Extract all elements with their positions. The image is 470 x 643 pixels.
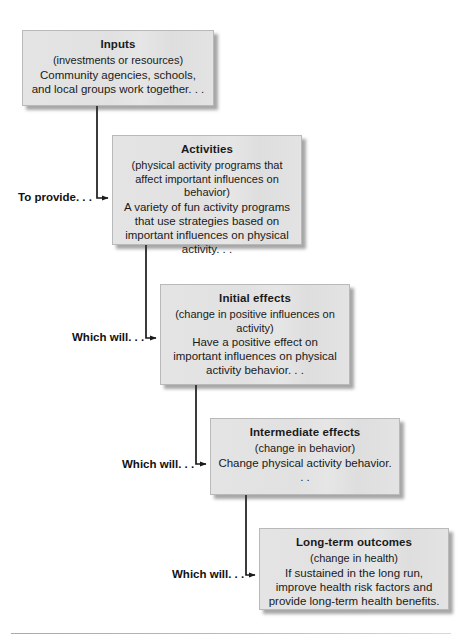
edge-label-to-provide: To provide. . . [18,191,92,204]
node-long-term-outcomes: Long-term outcomes (change in health) If… [259,528,449,610]
footer-divider [11,633,451,634]
node-initial-effects-subtitle: (change in positive influences on activi… [168,308,342,335]
node-inputs-subtitle: (investments or resources) [30,54,206,68]
edge-label-which-will-2: Which will. . . [122,458,194,471]
node-intermediate-effects-title: Intermediate effects [218,425,392,439]
node-activities-title: Activities [120,142,294,156]
node-activities-subtitle: (physical activity programs that affect … [120,159,294,200]
node-inputs: Inputs (investments or resources) Commun… [22,30,214,106]
node-activities-body: A variety of fun activity programs that … [120,200,294,256]
node-activities: Activities (physical activity programs t… [112,135,302,245]
edge-label-which-will-3: Which will. . . [172,568,244,581]
node-intermediate-effects: Intermediate effects (change in behavior… [210,418,400,495]
edge-label-which-will-1: Which will. . . [72,331,144,344]
node-intermediate-effects-subtitle: (change in behavior) [218,442,392,456]
node-inputs-body: Community agencies, schools, and local g… [30,68,206,96]
node-initial-effects-body: Have a positive effect on important infl… [168,335,342,377]
node-initial-effects-title: Initial effects [168,291,342,305]
connector-activities-to-initial [146,245,156,338]
connector-inputs-to-activities [97,106,108,198]
logic-model-diagram: Inputs (investments or resources) Commun… [0,0,470,643]
node-long-term-outcomes-subtitle: (change in health) [267,552,441,566]
node-long-term-outcomes-body: If sustained in the long run, improve he… [267,566,441,608]
node-initial-effects: Initial effects (change in positive infl… [160,284,350,385]
node-intermediate-effects-body: Change physical activity behavior. . . [218,456,392,484]
connector-initial-to-intermediate [196,385,206,464]
node-inputs-title: Inputs [30,37,206,51]
connector-intermediate-to-longterm [246,495,255,575]
node-long-term-outcomes-title: Long-term outcomes [267,535,441,549]
